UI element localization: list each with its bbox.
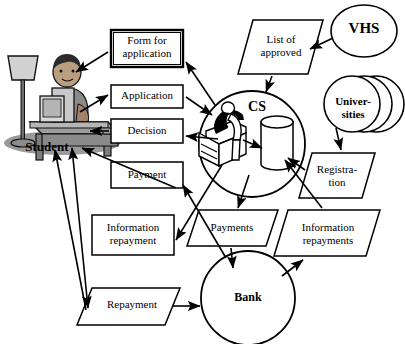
diagram-canvas: Student Form for application Application… — [0, 0, 405, 344]
node-list-of-approved[interactable] — [238, 20, 323, 74]
node-repayment[interactable] — [77, 288, 180, 325]
node-decision[interactable] — [111, 119, 183, 143]
node-information-repayments[interactable] — [274, 210, 380, 256]
edge-student-repayment-second — [55, 150, 86, 310]
computer-icon — [40, 88, 74, 122]
edge-layer — [55, 38, 341, 310]
node-universities[interactable] — [324, 76, 404, 132]
diagram-svg — [0, 0, 405, 344]
node-vhs[interactable] — [331, 5, 397, 57]
node-application[interactable] — [111, 85, 183, 108]
node-form-for-application[interactable] — [111, 30, 183, 67]
edge-student-repayment — [72, 148, 88, 308]
node-bank[interactable] — [201, 251, 295, 344]
edge-cs-to-form — [186, 62, 215, 105]
edge-universities-to-registration — [336, 128, 341, 150]
edge-application-to-cs — [186, 97, 212, 115]
node-information-repayment[interactable] — [92, 215, 174, 255]
edge-form-to-student — [76, 52, 108, 72]
node-registration[interactable] — [299, 153, 375, 198]
edge-list-to-cs — [266, 76, 272, 92]
cs-database-icon — [261, 116, 293, 170]
